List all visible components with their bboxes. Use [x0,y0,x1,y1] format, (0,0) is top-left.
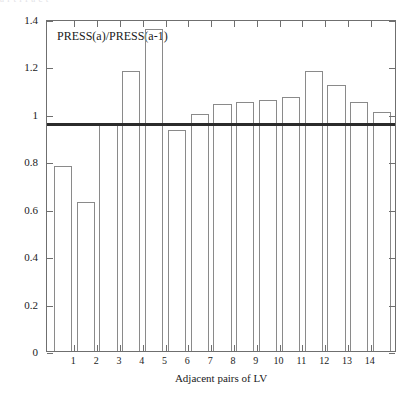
x-axis-tick [371,345,372,351]
x-axis-tick [211,345,212,351]
y-tick-label: 0 [33,347,39,358]
x-axis-tick [348,21,349,27]
y-tick-label: 1 [33,109,39,120]
x-tick-label: 14 [365,356,375,366]
x-axis-tick [166,21,167,27]
bar [373,112,391,352]
x-axis-tick [74,21,75,27]
y-axis-tick [389,163,395,164]
y-axis-tick [389,353,395,354]
x-axis-tick [280,345,281,351]
x-axis-tick [325,21,326,27]
x-axis-tick [97,21,98,27]
x-axis-tick [166,345,167,351]
x-axis-title: Adjacent pairs of LV [46,372,396,384]
x-axis-tick [348,345,349,351]
bar [77,202,95,351]
y-axis-tick [47,116,53,117]
bar [191,114,209,351]
x-axis-tick [257,21,258,27]
x-axis-tick [74,345,75,351]
x-axis-tick [211,21,212,27]
bar [99,123,117,351]
y-axis-tick [47,353,53,354]
x-axis-tick [234,345,235,351]
y-axis-tick-labels: 00.20.40.60.811.21.4 [0,20,44,352]
y-tick-label: 1.4 [24,15,38,26]
bar [145,29,163,352]
x-tick-label: 13 [342,356,352,366]
x-tick-label: 8 [230,356,235,366]
x-axis-tick [371,21,372,27]
y-axis-tick [47,258,53,259]
x-axis-tick [188,21,189,27]
x-tick-label: 6 [185,356,190,366]
y-tick-label: 0.8 [24,157,38,168]
y-axis-tick [47,21,53,22]
x-tick-label: 5 [162,356,167,366]
x-tick-label: 1 [71,356,76,366]
bar [122,71,140,351]
reference-line [47,123,395,126]
x-tick-label: 3 [116,356,121,366]
x-axis-tick [120,21,121,27]
x-tick-label: 9 [253,356,258,366]
y-axis-tick [389,211,395,212]
y-axis-tick [389,68,395,69]
bar [350,102,368,351]
x-axis-tick [188,345,189,351]
x-axis-tick [234,21,235,27]
x-axis-tick [302,345,303,351]
y-axis-tick [389,21,395,22]
bar [282,97,300,351]
bar [54,166,72,351]
y-tick-label: 0.2 [24,299,38,310]
x-axis-tick [325,345,326,351]
x-tick-label: 2 [94,356,99,366]
bar [236,102,254,351]
y-axis-tick [389,306,395,307]
x-tick-label: 12 [319,356,329,366]
y-axis-tick [47,68,53,69]
x-axis-tick [120,345,121,351]
y-axis-tick [389,258,395,259]
y-axis-tick [47,211,53,212]
y-axis-tick [47,306,53,307]
bar [259,100,277,351]
bar [213,104,231,351]
x-axis-tick [97,345,98,351]
x-axis-tick [143,21,144,27]
x-axis-tick [280,21,281,27]
y-axis-tick [47,163,53,164]
plot-area: PRESS(a)/PRESS(a-1) [46,20,396,352]
x-tick-label: 4 [139,356,144,366]
x-tick-label: 7 [208,356,213,366]
x-axis-tick [257,345,258,351]
press-ratio-bar-chart: 00.20.40.60.811.21.4 PRESS(a)/PRESS(a-1)… [0,0,418,396]
bar [168,130,186,351]
x-axis-tick [302,21,303,27]
bar [305,71,323,351]
y-tick-label: 0.4 [24,252,38,263]
y-tick-label: 0.6 [24,204,38,215]
x-tick-label: 11 [297,356,307,366]
y-axis-tick [389,116,395,117]
y-tick-label: 1.2 [24,62,38,73]
x-axis-tick [143,345,144,351]
x-tick-label: 10 [274,356,284,366]
